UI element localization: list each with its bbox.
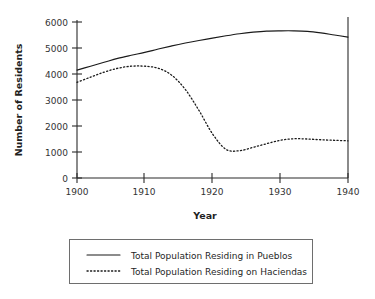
series-line-pueblos [77, 31, 348, 70]
x-axis-ticks: 1900 1910 1920 1930 1940 [66, 173, 360, 197]
chart-figure: 6000 5000 4000 3000 2000 1000 0 1900 191… [0, 0, 375, 299]
legend-label-pueblos: Total Population Residing in Pueblos [130, 251, 292, 261]
y-tick-label: 4000 [45, 70, 68, 80]
legend-label-haciendas: Total Population Residing on Haciendas [130, 267, 307, 277]
y-tick-label: 2000 [45, 122, 68, 132]
y-tick-label: 0 [62, 174, 68, 184]
legend: Total Population Residing in Pueblos Tot… [70, 240, 313, 284]
legend-box [70, 240, 313, 284]
x-tick-label: 1900 [66, 187, 89, 197]
x-tick-label: 1930 [269, 187, 292, 197]
y-tick-label: 6000 [45, 18, 68, 28]
line-chart: 6000 5000 4000 3000 2000 1000 0 1900 191… [0, 0, 375, 299]
y-tick-label: 5000 [45, 44, 68, 54]
x-axis-title: Year [192, 210, 217, 221]
x-tick-label: 1940 [337, 187, 360, 197]
y-tick-label: 3000 [45, 96, 68, 106]
y-axis-title: Number of Residents [13, 43, 24, 156]
x-tick-label: 1920 [201, 187, 224, 197]
series-line-haciendas [77, 66, 348, 151]
axes-group [77, 17, 348, 178]
y-tick-label: 1000 [45, 148, 68, 158]
x-tick-label: 1910 [133, 187, 156, 197]
series-group [77, 31, 348, 151]
